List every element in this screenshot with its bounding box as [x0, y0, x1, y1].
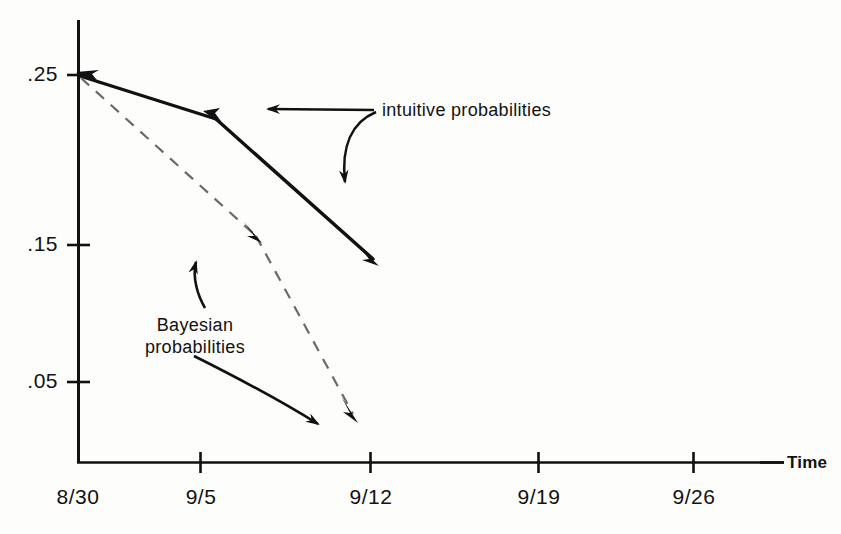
x-tick-label-9-12: 9/12: [331, 485, 411, 509]
bayesian-leader-lower: [194, 356, 318, 424]
series-intuitive-probabilities: [76, 70, 379, 266]
annotation-bayesian-probabilities: Bayesian probabilities: [112, 315, 278, 359]
x-tick-label-8-30: 8/30: [38, 485, 118, 509]
y-tick-label-015: .15: [0, 232, 58, 256]
bayesian-bend-arrowhead: [244, 222, 262, 243]
chart-plot-area: [0, 0, 841, 534]
annotation-bayesian-line-2: probabilities: [112, 337, 278, 359]
intuitive-segment-1: [80, 76, 216, 119]
series-bayesian-probabilities: [81, 78, 358, 423]
x-tick-label-9-26: 9/26: [654, 485, 734, 509]
bayesian-end-arrowhead: [341, 396, 358, 423]
bayesian-segment-1: [81, 78, 256, 236]
intuitive-end-arrowhead: [360, 247, 379, 266]
y-tick-label-005: .05: [0, 369, 58, 393]
x-tick-label-9-5: 9/5: [161, 485, 241, 509]
chart-figure: .25 .15 .05 8/30 9/5 9/12 9/19 9/26 Time…: [0, 0, 841, 534]
annotation-intuitive-probabilities: intuitive probabilities: [382, 100, 551, 121]
x-axis-title: Time: [787, 453, 827, 473]
axis-lines: [77, 20, 784, 463]
intuitive-leader-upper: [268, 109, 374, 110]
annotation-leaders-intuitive: [268, 109, 376, 182]
intuitive-leader-lower: [344, 112, 376, 182]
annotation-bayesian-line-1: Bayesian: [112, 315, 278, 337]
y-tick-label-025: .25: [0, 62, 58, 86]
x-tick-label-9-19: 9/19: [499, 485, 579, 509]
bayesian-leader-upper: [195, 262, 205, 308]
